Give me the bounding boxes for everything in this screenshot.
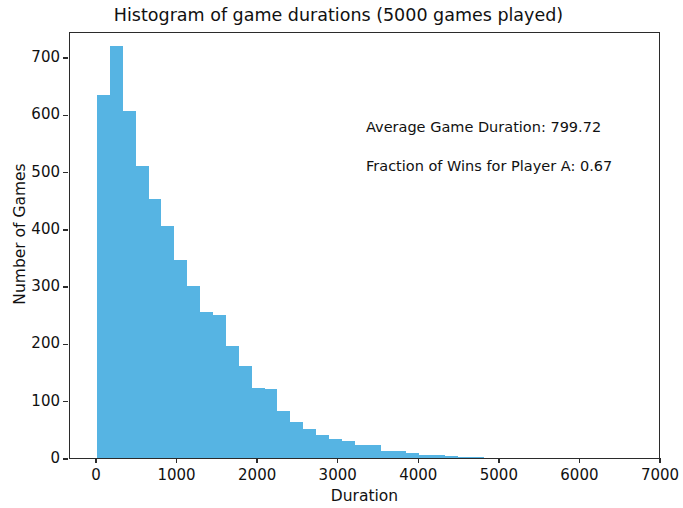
histogram-bar	[239, 366, 252, 458]
x-axis-tick-label: 3000	[293, 466, 383, 484]
histogram-bar	[290, 422, 303, 458]
histogram-bar	[342, 441, 355, 458]
x-axis-tick-mark	[95, 458, 96, 463]
histogram-bar	[265, 389, 278, 458]
histogram-bar	[445, 456, 458, 458]
plot-area: Average Game Duration: 799.72 Fraction o…	[69, 32, 660, 459]
annotation-average-game-duration: Average Game Duration: 799.72	[366, 119, 601, 135]
x-axis-tick-label: 7000	[615, 466, 683, 484]
histogram-bar	[226, 346, 239, 458]
histogram-bar	[316, 435, 329, 458]
y-axis-tick-mark	[63, 344, 68, 345]
histogram-bar	[368, 445, 381, 458]
x-axis-tick-label: 5000	[454, 466, 544, 484]
y-axis-tick-mark	[63, 172, 68, 173]
annotation-fraction-of-wins: Fraction of Wins for Player A: 0.67	[366, 158, 612, 174]
x-axis-tick-mark	[176, 458, 177, 463]
histogram-bar	[381, 451, 394, 458]
x-axis-tick-mark	[337, 458, 338, 463]
histogram-bar	[303, 429, 316, 458]
y-axis-tick-mark	[63, 458, 68, 459]
y-axis-tick-label: 400	[0, 220, 60, 238]
histogram-bar	[187, 286, 200, 458]
histogram-bar	[419, 455, 432, 458]
y-axis-label: Number of Games	[11, 134, 29, 334]
y-axis-tick-mark	[63, 286, 68, 287]
x-axis-tick-label: 4000	[373, 466, 463, 484]
y-axis-tick-label: 100	[0, 392, 60, 410]
x-axis-label: Duration	[69, 487, 660, 505]
y-axis-tick-mark	[63, 401, 68, 402]
histogram-bar	[174, 260, 187, 458]
histogram-bar	[458, 457, 471, 458]
y-axis-tick-label: 700	[0, 48, 60, 66]
histogram-bar	[213, 315, 226, 458]
y-axis-tick-label: 0	[0, 449, 60, 467]
x-axis-tick-label: 2000	[212, 466, 302, 484]
x-axis-tick-mark	[418, 458, 419, 463]
page-title: Histogram of game durations (5000 games …	[0, 5, 677, 25]
x-axis-tick-label: 0	[51, 466, 141, 484]
x-axis-tick-mark	[498, 458, 499, 463]
histogram-bar	[149, 199, 162, 458]
histogram-bar	[394, 451, 407, 458]
y-axis-tick-label: 200	[0, 334, 60, 352]
y-axis-tick-mark	[63, 115, 68, 116]
histogram-bar	[252, 388, 265, 458]
histogram-bar	[161, 226, 174, 458]
y-axis-tick-label: 500	[0, 163, 60, 181]
histogram-bar	[136, 166, 149, 458]
histogram-bar	[471, 457, 484, 458]
histogram-bar	[97, 95, 110, 458]
y-axis-tick-label: 300	[0, 277, 60, 295]
histogram-bars	[70, 33, 659, 458]
y-axis-tick-label: 600	[0, 105, 60, 123]
x-axis-tick-mark	[659, 458, 660, 463]
histogram-bar	[123, 111, 136, 458]
x-axis-tick-label: 1000	[132, 466, 222, 484]
histogram-bar	[277, 411, 290, 458]
x-axis-tick-mark	[256, 458, 257, 463]
x-axis-tick-mark	[579, 458, 580, 463]
histogram-bar	[432, 455, 445, 458]
y-axis-tick-mark	[63, 57, 68, 58]
histogram-bar	[110, 46, 123, 458]
histogram-bar	[200, 312, 213, 458]
x-axis-tick-label: 6000	[534, 466, 624, 484]
histogram-bar	[329, 439, 342, 458]
histogram-bar	[355, 445, 368, 458]
y-axis-tick-mark	[63, 229, 68, 230]
